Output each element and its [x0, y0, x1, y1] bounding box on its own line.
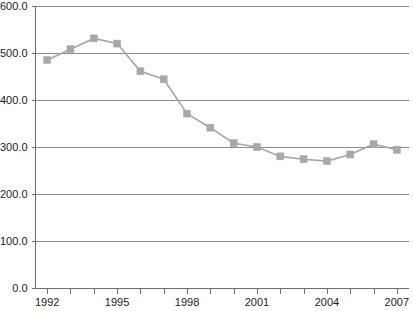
line-chart-plot: 0.0100.0200.0300.0400.0500.0600.0 199219…: [0, 0, 413, 311]
x-axis: [36, 289, 409, 294]
data-point-marker: [347, 151, 354, 158]
data-point-marker: [370, 141, 377, 148]
x-tick-label: 1995: [105, 296, 129, 308]
data-point-marker: [114, 40, 121, 47]
x-tick-label: 2007: [385, 296, 409, 308]
chart-container: 0.0100.0200.0300.0400.0500.0600.0 199219…: [0, 0, 413, 311]
data-point-marker: [393, 146, 400, 153]
data-point-marker: [300, 156, 307, 163]
data-point-marker: [277, 153, 284, 160]
data-point-marker: [323, 158, 330, 165]
data-point-marker: [184, 110, 191, 117]
x-tick-label: 2001: [245, 296, 269, 308]
x-tick-label: 2004: [315, 296, 339, 308]
y-tick-label: 600.0: [0, 0, 28, 12]
y-tick-label: 200.0: [0, 188, 28, 200]
data-point-markers: [44, 35, 401, 165]
y-tick-label: 0.0: [12, 282, 27, 294]
y-tick-labels: 0.0100.0200.0300.0400.0500.0600.0: [0, 0, 28, 294]
data-point-marker: [137, 68, 144, 75]
x-tick-label: 1992: [35, 296, 59, 308]
x-tick-labels: 199219951998200120042007: [35, 296, 409, 308]
data-point-marker: [253, 143, 260, 150]
y-tick-label: 300.0: [0, 141, 28, 153]
data-point-marker: [67, 46, 74, 53]
series-polyline: [47, 38, 397, 161]
data-point-marker: [230, 140, 237, 147]
data-point-marker: [207, 124, 214, 131]
x-tick-label: 1998: [175, 296, 199, 308]
y-tick-label: 400.0: [0, 94, 28, 106]
data-point-marker: [160, 76, 167, 83]
data-series-line: [47, 38, 397, 161]
y-tick-label: 500.0: [0, 47, 28, 59]
y-axis: [32, 6, 36, 289]
data-point-marker: [44, 57, 51, 64]
data-point-marker: [90, 35, 97, 42]
y-tick-label: 100.0: [0, 235, 28, 247]
